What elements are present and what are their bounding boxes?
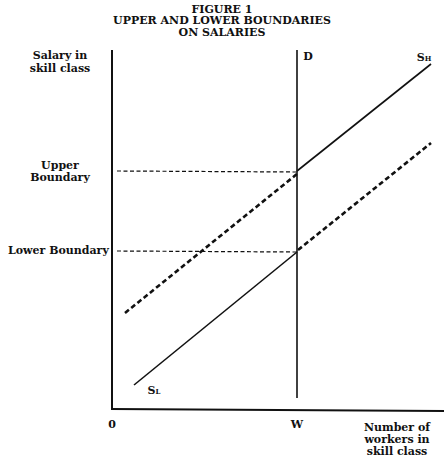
x-axis	[111, 409, 444, 411]
supply-low-line	[134, 252, 297, 385]
lower-boundary-guide	[117, 251, 297, 252]
shifted-supply-upper-dashed	[125, 174, 297, 313]
diagram-canvas	[0, 0, 444, 458]
shifted-supply-lower-dashed	[298, 143, 431, 250]
supply-high-line	[297, 64, 431, 171]
upper-boundary-guide	[117, 171, 297, 172]
